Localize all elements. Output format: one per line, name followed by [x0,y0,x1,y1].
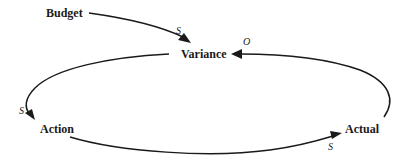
edge-variance-to-action: S [19,54,169,120]
node-actual: Actual [345,122,380,136]
node-action: Action [40,122,74,136]
edge-budget-to-variance: S [89,13,191,43]
edge-label-budget-variance: S [176,25,181,36]
causal-loop-diagram: S S S O Budget Variance Action Actual [0,0,404,164]
arrowhead-icon [231,49,242,59]
edge-actual-to-variance: O [231,36,390,117]
edge-label-variance-action: S [19,105,24,116]
arrowhead-icon [330,131,342,139]
arrowhead-icon [25,109,35,120]
edge-action-to-actual: S [70,131,342,154]
edge-label-actual-variance: O [243,36,250,47]
node-budget: Budget [46,6,83,20]
node-variance: Variance [181,47,227,61]
edge-label-action-actual: S [328,141,333,152]
